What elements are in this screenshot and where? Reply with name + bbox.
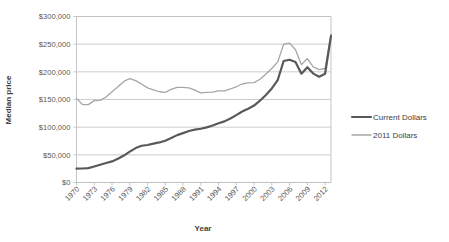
series-line-2011-dollars — [77, 34, 332, 104]
x-tick-label: 2009 — [294, 185, 312, 203]
data-series-group — [77, 34, 332, 168]
x-tick-label: 1985 — [152, 185, 170, 203]
y-tick-label: $300,000 — [39, 12, 71, 21]
legend-label: Current Dollars — [373, 113, 427, 122]
x-axis-title: Year — [195, 224, 212, 233]
gridlines-group — [77, 17, 332, 183]
x-axis-tick-labels: 1970197319761979198219851988199119941997… — [63, 183, 330, 203]
median-price-line-chart: $300,000$250,000$200,000$150,000$100,000… — [0, 0, 449, 242]
x-tick-label: 1991 — [187, 185, 205, 203]
x-tick-label: 1997 — [223, 185, 241, 203]
x-tick-label: 1994 — [205, 185, 223, 203]
chart-canvas: $300,000$250,000$200,000$150,000$100,000… — [0, 0, 449, 242]
y-tick-label: $150,000 — [39, 95, 71, 104]
x-tick-label: 1976 — [99, 185, 117, 203]
x-tick-label: 1988 — [170, 185, 188, 203]
chart-legend: Current Dollars2011 Dollars — [352, 113, 427, 140]
y-tick-label: $250,000 — [39, 40, 71, 49]
y-tick-label: $200,000 — [39, 68, 71, 77]
y-axis-title: Median price — [4, 75, 13, 124]
legend-label: 2011 Dollars — [373, 131, 417, 140]
x-tick-label: 2006 — [276, 185, 294, 203]
y-tick-label: $100,000 — [39, 123, 71, 132]
series-line-current-dollars — [77, 36, 332, 169]
y-tick-label: $0 — [62, 178, 70, 187]
y-axis-tick-labels: $300,000$250,000$200,000$150,000$100,000… — [39, 12, 77, 187]
x-tick-label: 2012 — [312, 185, 330, 203]
x-tick-label: 1973 — [81, 185, 99, 203]
x-tick-label: 2000 — [241, 185, 259, 203]
x-tick-label: 1982 — [134, 185, 152, 203]
y-tick-label: $50,000 — [43, 151, 70, 160]
x-tick-label: 1979 — [116, 185, 134, 203]
x-tick-label: 2003 — [258, 185, 276, 203]
